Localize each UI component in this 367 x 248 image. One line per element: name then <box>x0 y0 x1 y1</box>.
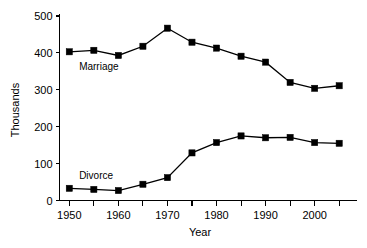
data-point-divorce-1955 <box>91 186 97 192</box>
data-point-divorce-1980 <box>213 139 219 145</box>
x-tick-label: 1980 <box>204 209 228 221</box>
data-point-divorce-1970 <box>164 175 170 181</box>
series-layer <box>66 25 342 194</box>
data-point-divorce-1990 <box>262 135 268 141</box>
data-point-divorce-1950 <box>66 185 72 191</box>
x-tick-label: 2000 <box>302 209 326 221</box>
x-tick-label: 1960 <box>106 209 130 221</box>
series-label-marriage: Marriage <box>79 61 119 72</box>
data-point-marriage-1975 <box>189 39 195 45</box>
data-point-marriage-1990 <box>262 59 268 65</box>
x-axis-title: Year <box>189 226 212 238</box>
data-point-divorce-1975 <box>189 150 195 156</box>
y-tick-label: 500 <box>34 10 52 22</box>
y-tick-label: 100 <box>34 158 52 170</box>
data-point-divorce-1995 <box>287 134 293 140</box>
y-axis-title: Thousands <box>9 82 21 137</box>
series-line-marriage <box>69 28 339 88</box>
x-tick-label: 1990 <box>253 209 277 221</box>
data-point-divorce-1960 <box>115 187 121 193</box>
data-point-marriage-2000 <box>312 85 318 91</box>
y-tick-group: 0100200300400500 <box>34 10 59 207</box>
y-tick-label: 200 <box>34 121 52 133</box>
chart-canvas: 0100200300400500 19501960197019801990200… <box>0 0 367 248</box>
series-line-divorce <box>69 136 339 191</box>
data-point-marriage-1995 <box>287 79 293 85</box>
line-chart: 0100200300400500 19501960197019801990200… <box>0 0 367 248</box>
y-tick-label: 300 <box>34 84 52 96</box>
y-tick-label: 0 <box>46 195 52 207</box>
data-point-marriage-1985 <box>238 53 244 59</box>
data-point-divorce-1965 <box>140 181 146 187</box>
data-point-marriage-1965 <box>140 43 146 49</box>
data-point-marriage-1980 <box>213 45 219 51</box>
y-tick-label: 400 <box>34 47 52 59</box>
data-point-divorce-2000 <box>312 139 318 145</box>
x-tick-label: 1950 <box>57 209 81 221</box>
x-tick-group: 195019601970198019902000 <box>57 201 339 221</box>
data-point-marriage-1950 <box>66 49 72 55</box>
series-label-group: MarriageDivorce <box>79 61 119 182</box>
series-label-divorce: Divorce <box>79 170 113 181</box>
data-point-marriage-1970 <box>164 25 170 31</box>
data-point-divorce-1985 <box>238 133 244 139</box>
x-tick-label: 1970 <box>155 209 179 221</box>
data-point-divorce-2005 <box>336 140 342 146</box>
data-point-marriage-2005 <box>336 83 342 89</box>
data-point-marriage-1955 <box>91 47 97 53</box>
data-point-marriage-1960 <box>115 52 121 58</box>
